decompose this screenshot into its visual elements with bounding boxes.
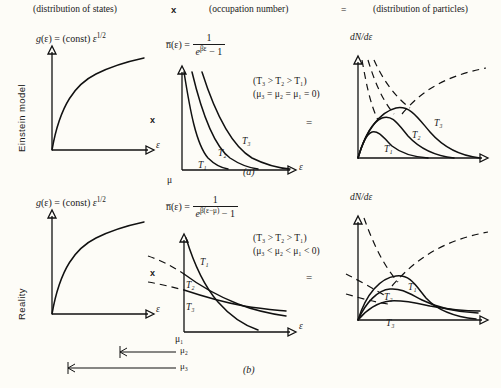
- header-times-operator: x: [171, 4, 176, 15]
- header-row: (distribution of states) x (occupation n…: [0, 4, 501, 22]
- x-axis-label-epsilon: ε: [156, 304, 160, 314]
- dashed-occupation-T1: [364, 218, 398, 282]
- curve-label-T3-particles: T₃: [434, 118, 443, 128]
- curve-label-T2-occupation: T₂: [218, 148, 227, 158]
- figure-root: (distribution of states) x (occupation n…: [0, 0, 501, 388]
- panel-einstein-density-of-states: g(ε) = (const) ε1/2 ε: [30, 32, 160, 172]
- header-equals-operator: =: [341, 5, 346, 15]
- nbar-lhs: n̅(ε) =: [166, 39, 190, 50]
- einstein-particles-plot: [340, 46, 500, 171]
- header-distribution-of-states: (distribution of states): [33, 4, 117, 14]
- panel-reality-occupation-number: n̅(ε) = 1 eβ(ε−μ) − 1 T₁ T₂ T₃ μ₁ ε: [166, 194, 316, 344]
- x-axis-label-epsilon: ε: [299, 321, 303, 331]
- fraction-denominator: eβ(ε−μ) − 1: [193, 206, 238, 220]
- curve-label-T3-occupation: T₃: [242, 136, 251, 146]
- nbar-lhs: n̅(ε) =: [166, 201, 190, 212]
- y-axis-label-dNdeps: dN/dε: [350, 192, 372, 202]
- dashed-dos-envelope: [402, 68, 486, 114]
- mu3-label: μ₃: [180, 361, 188, 371]
- denominator-exponent: β(ε−μ): [200, 207, 219, 215]
- x-axis-label-epsilon: ε: [299, 162, 303, 172]
- fraction-numerator: 1: [193, 33, 226, 44]
- y-axis-label-dNdeps: dN/dε: [350, 32, 372, 42]
- reality-particles-plot: [340, 206, 500, 334]
- header-occupation-number: (occupation number): [209, 4, 288, 14]
- row-label-reality: Reality: [16, 288, 27, 320]
- denominator-tail: − 1: [207, 46, 223, 57]
- curve-T3: [202, 72, 290, 169]
- curve-T3: [184, 290, 286, 311]
- operator-equals-row1: =: [306, 116, 312, 128]
- curve-sqrt-dos: [52, 222, 144, 314]
- caption-b: (b): [243, 364, 255, 375]
- nbar-fraction: 1 eβε − 1: [193, 33, 226, 57]
- denominator-exponent: βε: [200, 45, 207, 53]
- equation-nbar-reality: n̅(ε) = 1 eβ(ε−μ) − 1: [166, 196, 238, 220]
- mu-scale-bars: [0, 338, 501, 388]
- curve-label-T2-particles: T₂: [384, 292, 393, 302]
- nbar-fraction: 1 eβ(ε−μ) − 1: [193, 195, 238, 219]
- dashed-occupation-T1: [362, 60, 378, 120]
- condition-chemical-potentials-row2: (μ₃ < μ₂ < μ₁ < 0): [253, 246, 320, 256]
- condition-chemical-potentials-row1: (μ₃ = μ₂ = μ₁ = 0): [253, 89, 320, 99]
- mu2-label: μ₂: [180, 345, 188, 355]
- condition-temperatures-row1: (T₃ > T₂ > T₁): [253, 76, 307, 86]
- dashed-occupation-T2: [368, 60, 394, 114]
- operator-times-row2: x: [150, 268, 155, 278]
- panel-reality-particle-distribution: dN/dε T₁ T₂ T₃: [340, 192, 500, 342]
- operator-equals-row2: =: [306, 271, 312, 283]
- curve-label-T1-particles: T₁: [408, 282, 417, 292]
- fraction-denominator: eβε − 1: [193, 44, 226, 58]
- curve-label-T1-occupation: T₁: [198, 160, 207, 170]
- einstein-dos-plot: [30, 32, 160, 157]
- curve-label-T2-particles: T₂: [412, 130, 421, 140]
- curve-label-T1-occupation: T₁: [200, 257, 209, 267]
- curve-label-T1-particles: T₁: [384, 144, 393, 154]
- denominator-tail: − 1: [219, 208, 235, 219]
- header-distribution-of-particles: (distribution of particles): [373, 4, 468, 14]
- x-origin-label-mu: μ: [167, 175, 172, 185]
- reality-dos-plot: [30, 196, 160, 321]
- x-axis-label-epsilon: ε: [156, 140, 160, 150]
- curve-T1: [186, 238, 258, 330]
- condition-temperatures-row2: (T₃ > T₂ > T₁): [253, 233, 307, 243]
- operator-times-row1: x: [150, 115, 155, 125]
- dashed-occupation-T3: [374, 60, 410, 108]
- curve-label-T2-occupation: T₂: [186, 280, 195, 290]
- curve-label-T3-particles: T₃: [386, 318, 395, 328]
- fraction-numerator: 1: [193, 195, 238, 206]
- caption-a: (a): [243, 166, 255, 177]
- equation-nbar-einstein: n̅(ε) = 1 eβε − 1: [166, 34, 225, 58]
- panel-reality-density-of-states: g(ε) = (const) ε1/2 ε: [30, 196, 160, 336]
- curve-label-T3-occupation: T₃: [186, 302, 195, 312]
- row-label-einstein-model: Einstein model: [16, 84, 27, 152]
- curve-sqrt-dos: [52, 58, 144, 150]
- panel-einstein-occupation-number: n̅(ε) = 1 eβε − 1 T₁ T₂ T₃ μ ε: [166, 32, 306, 177]
- panel-einstein-particle-distribution: dN/dε T₁ T₂ T₃: [340, 32, 500, 177]
